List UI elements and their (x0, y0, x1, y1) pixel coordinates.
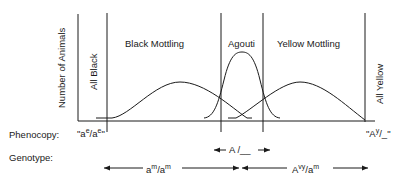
region-yellow-mottling-label: Yellow Mottling (277, 39, 340, 49)
region-black-mottling-label: Black Mottling (125, 39, 184, 49)
region-all-black-label: All Black (89, 54, 99, 90)
genotype-left-value: am/am (146, 163, 171, 175)
yellow-mottling-curve (228, 82, 365, 120)
region-agouti-label: Agouti (228, 39, 255, 49)
black-mottling-curve (96, 82, 252, 118)
genotype-right-value: Avy/am (292, 163, 319, 175)
y-axis-label: Number of Animals (57, 28, 67, 108)
phenocopy-row-label: Phenocopy: (9, 130, 59, 140)
genotype-row-label: Genotype: (9, 153, 53, 163)
phenocopy-left-value: "ae/ae" (77, 127, 105, 139)
agouti-genotype-label: A /__ (229, 145, 251, 155)
agouti-curve (204, 52, 280, 118)
phenocopy-right-value: "Ay/_" (366, 127, 391, 139)
region-all-yellow-label: All Yellow (375, 64, 385, 104)
